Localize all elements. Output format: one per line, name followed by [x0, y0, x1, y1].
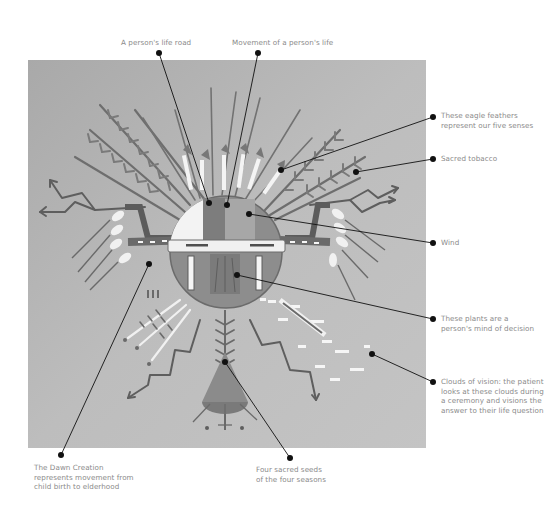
label-seeds-line-2: of the four seasons — [256, 475, 326, 485]
label-eagle-feathers: These eagle feathers represent our five … — [441, 111, 533, 130]
label-wind: Wind — [441, 238, 459, 248]
label-eagle-feathers-line-1: These eagle feathers — [441, 111, 533, 121]
label-plants-line-2: person's mind of decision — [441, 324, 534, 334]
label-plants-line-1: These plants are a — [441, 314, 534, 324]
label-movement-of-life: Movement of a person's life — [232, 38, 333, 48]
label-clouds-line-1: Clouds of vision: the patient — [441, 377, 544, 387]
label-clouds-line-2: looks at these clouds during — [441, 387, 544, 397]
label-clouds-line-4: answer to their life question — [441, 406, 544, 416]
label-dawn-line-3: child birth to elderhood — [34, 482, 134, 492]
label-life-road: A person's life road — [121, 38, 191, 48]
label-four-sacred-seeds: Four sacred seeds of the four seasons — [256, 465, 326, 484]
label-seeds-line-1: Four sacred seeds — [256, 465, 326, 475]
label-eagle-feathers-line-2: represent our five senses — [441, 121, 533, 131]
label-dawn-line-2: represents movement from — [34, 473, 134, 483]
label-dawn-creation: The Dawn Creation represents movement fr… — [34, 463, 134, 492]
label-plants-decision: These plants are a person's mind of deci… — [441, 314, 534, 333]
label-clouds-of-vision: Clouds of vision: the patient looks at t… — [441, 377, 544, 415]
label-clouds-line-3: a ceremony and visions the — [441, 396, 544, 406]
label-sacred-tobacco: Sacred tobacco — [441, 154, 497, 164]
sandpainting-illustration — [0, 0, 555, 518]
label-dawn-line-1: The Dawn Creation — [34, 463, 134, 473]
annotated-sandpainting-diagram: A person's life road Movement of a perso… — [0, 0, 555, 518]
